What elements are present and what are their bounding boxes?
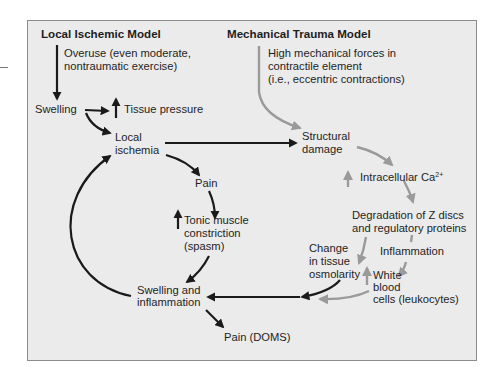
calcium-superscript: 2+ (435, 171, 443, 178)
intracellular-calcium-label: Intracellular Ca2+ (360, 171, 443, 184)
ischemia-to-pain-arrow (166, 155, 199, 175)
forces-line1: High mechanical forces in (268, 47, 396, 60)
wbc-line3: cells (leukocytes) (373, 293, 459, 306)
swelling-to-pressure-arrow (85, 110, 108, 111)
pain-doms-label: Pain (DOMS) (224, 331, 291, 344)
feedback-loop-arrow (71, 156, 131, 296)
wbc-to-swelling-arrow (320, 291, 369, 299)
local-ischemia-line2: ischemia (115, 144, 159, 157)
overuse-label-line1: Overuse (even moderate, (64, 47, 191, 60)
swelling-inflammation-line2: inflammation (137, 296, 200, 309)
degradation-line1: Degradation of Z discs (352, 209, 464, 222)
forces-line3: (i.e., eccentric contractions) (268, 73, 405, 86)
calcium-to-degradation-arrow (404, 181, 413, 202)
tissue-pressure-label: Tissue pressure (124, 103, 203, 116)
mechanical-trauma-model-title: Mechanical Trauma Model (227, 27, 371, 40)
osmolarity-line1: Change (309, 242, 348, 255)
local-ischemic-model-title: Local Ischemic Model (41, 27, 161, 40)
osmolarity-line3: osmolarity (309, 268, 360, 281)
swelling-label: Swelling (35, 103, 77, 116)
degradation-to-inflammation-tick (411, 235, 412, 242)
tonic-line2: constriction (184, 227, 241, 240)
osmolarity-line2: in tissue (309, 255, 350, 268)
degradation-to-osmolarity-arrow (359, 237, 366, 263)
swelling-to-ischemia-arrow (86, 113, 110, 133)
swelling-to-doms-arrow (206, 310, 223, 327)
forces-line2: contractile element (268, 60, 362, 73)
tonic-line3: (spasm) (184, 240, 224, 253)
overuse-label-line2: nontraumatic exercise) (64, 60, 177, 73)
damage-to-calcium-arrow (357, 147, 392, 165)
spasm-to-swelling-arrow (187, 256, 209, 282)
degradation-line2: and regulatory proteins (352, 222, 466, 235)
osmolarity-curve-arrow (302, 280, 340, 297)
local-ischemia-line1: Local (115, 131, 142, 144)
calcium-text: Intracellular Ca (360, 171, 435, 183)
pain-label: Pain (195, 177, 217, 190)
inflammation-label: Inflammation (380, 245, 444, 258)
structural-damage-line1: Structural (302, 130, 350, 143)
tonic-line1: Tonic muscle (184, 214, 249, 227)
structural-damage-line2: damage (302, 143, 342, 156)
